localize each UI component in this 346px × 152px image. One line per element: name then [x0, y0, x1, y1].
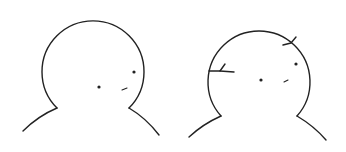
illustration-canvas: intact head cracked head [0, 0, 346, 152]
eye-right [294, 62, 297, 65]
left-shoulder [189, 116, 221, 137]
head-outline [208, 31, 310, 116]
left-shoulder [23, 108, 57, 131]
figure-intact [23, 21, 159, 135]
mouth [122, 88, 127, 90]
figure-cracked [189, 31, 326, 140]
eye-left [97, 85, 100, 88]
eye-right [132, 70, 135, 73]
right-shoulder [297, 116, 326, 140]
drawing [0, 0, 346, 152]
right-shoulder [129, 108, 159, 135]
head-outline [42, 21, 144, 108]
mouth [284, 80, 288, 82]
crack-left-branch-icon [220, 71, 234, 72]
eye-left [259, 78, 262, 81]
